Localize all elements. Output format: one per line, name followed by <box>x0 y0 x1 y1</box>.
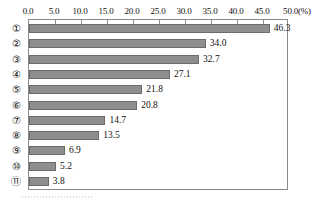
bar-row: ⑧13.5 <box>0 128 318 143</box>
bar-value-label: 13.5 <box>103 128 120 143</box>
x-tick-label-15: 15.0 <box>99 5 114 18</box>
category-label: ② <box>6 36 26 51</box>
x-tick-label-10: 10.0 <box>73 5 88 18</box>
x-tick-label-35: 35.0 <box>203 5 218 18</box>
horizontal-bar-chart: 0.05.010.015.020.025.030.035.040.045.050… <box>0 0 318 204</box>
bar <box>29 162 56 171</box>
bar-value-label: 32.7 <box>203 52 220 67</box>
x-tick-label-50: 50.0(%) <box>283 5 311 18</box>
bar-row: ⑤21.8 <box>0 82 318 97</box>
bar <box>29 55 199 64</box>
category-label: ⑨ <box>6 143 26 158</box>
x-tick-label-45: 45.0 <box>255 5 270 18</box>
x-tick-label-0: 0.0 <box>23 5 34 18</box>
bar-row: ④27.1 <box>0 67 318 82</box>
category-label: ⑪ <box>6 174 26 189</box>
bar-row: ⑦14.7 <box>0 113 318 128</box>
bar-row: ⑥20.8 <box>0 98 318 113</box>
bar-value-label: 20.8 <box>141 98 158 113</box>
x-tick-label-40: 40.0 <box>229 5 244 18</box>
bar <box>29 39 206 48</box>
bar-value-label: 5.2 <box>60 159 72 174</box>
bar-row: ⑩5.2 <box>0 159 318 174</box>
bar-value-label: 34.0 <box>210 36 227 51</box>
bar-value-label: 3.8 <box>53 174 65 189</box>
bar <box>29 116 105 125</box>
bar <box>29 85 142 94</box>
bar-value-label: 21.8 <box>146 82 163 97</box>
category-label: ⑦ <box>6 113 26 128</box>
bar <box>29 177 49 186</box>
bar-row: ⑪3.8 <box>0 174 318 189</box>
bar-row: ⑨6.9 <box>0 143 318 158</box>
bar <box>29 24 270 33</box>
category-label: ③ <box>6 52 26 67</box>
category-label: ⑧ <box>6 128 26 143</box>
bar-row: ③32.7 <box>0 52 318 67</box>
bar-row: ①46.3 <box>0 21 318 36</box>
category-label: ⑤ <box>6 82 26 97</box>
bar <box>29 101 137 110</box>
bar-row: ②34.0 <box>0 36 318 51</box>
category-label: ④ <box>6 67 26 82</box>
x-tick-label-20: 20.0 <box>125 5 140 18</box>
bar-value-label: 46.3 <box>274 21 291 36</box>
category-label: ⑩ <box>6 159 26 174</box>
bar <box>29 70 170 79</box>
bar <box>29 146 65 155</box>
x-tick-label-30: 30.0 <box>177 5 192 18</box>
x-axis-tick-label-row: 0.05.010.015.020.025.030.035.040.045.050… <box>0 5 318 18</box>
scan-artifact <box>22 196 94 198</box>
x-tick-label-25: 25.0 <box>151 5 166 18</box>
x-tick-label-5: 5.0 <box>49 5 60 18</box>
bar-value-label: 27.1 <box>174 67 191 82</box>
bar <box>29 131 99 140</box>
bar-value-label: 6.9 <box>69 143 81 158</box>
category-label: ⑥ <box>6 98 26 113</box>
category-label: ① <box>6 21 26 36</box>
bar-rows-container: ①46.3②34.0③32.7④27.1⑤21.8⑥20.8⑦14.7⑧13.5… <box>0 19 318 190</box>
bar-value-label: 14.7 <box>109 113 126 128</box>
